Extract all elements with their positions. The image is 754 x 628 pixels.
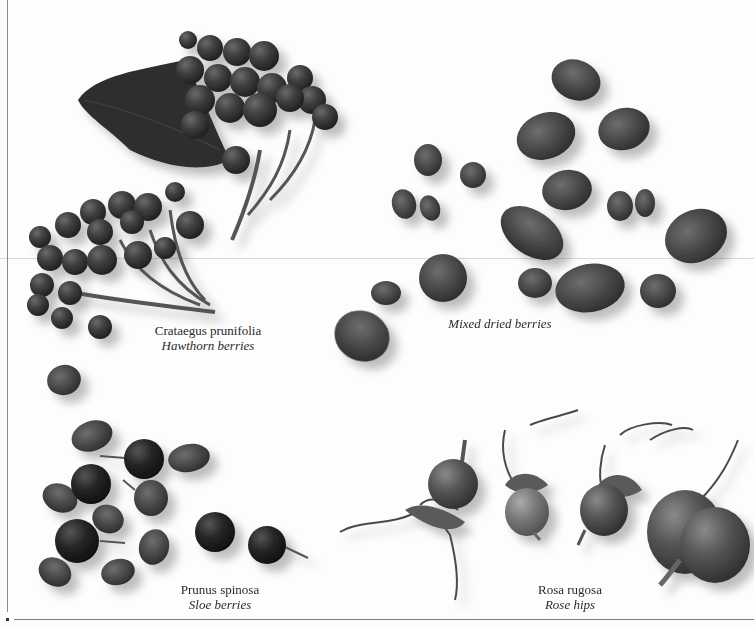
caption-common-name: Rose hips — [500, 597, 640, 612]
sloe-berries — [33, 361, 308, 593]
book-page: Crataegus prunifolia Hawthorn berries Mi… — [0, 0, 754, 628]
rose-hips — [340, 410, 750, 600]
caption-latin-name: Prunus spinosa — [150, 582, 290, 597]
caption-rosehip: Rosa rugosa Rose hips — [500, 582, 640, 612]
hawthorn-left-cluster — [27, 182, 215, 339]
caption-latin-name: Rosa rugosa — [500, 582, 640, 597]
caption-sloe: Prunus spinosa Sloe berries — [150, 582, 290, 612]
caption-common-name: Mixed dried berries — [420, 316, 580, 331]
specimen-illustrations — [0, 0, 754, 628]
caption-hawthorn: Crataegus prunifolia Hawthorn berries — [118, 323, 298, 353]
caption-common-name: Hawthorn berries — [118, 338, 298, 353]
caption-latin-name: Crataegus prunifolia — [118, 323, 298, 338]
caption-mixed: Mixed dried berries — [420, 316, 580, 331]
caption-common-name: Sloe berries — [150, 597, 290, 612]
